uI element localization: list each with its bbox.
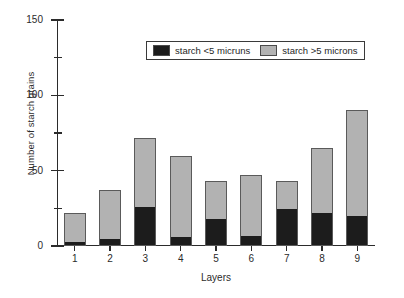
x-tick-label: 5 bbox=[201, 253, 231, 264]
legend-entry-small: starch <5 micruns bbox=[153, 45, 250, 56]
bar-layer-8 bbox=[311, 148, 333, 246]
y-tick-major bbox=[51, 95, 64, 96]
bar-segment-small-grains bbox=[347, 216, 367, 245]
legend-entry-large: starch >5 microns bbox=[260, 45, 357, 56]
y-tick-label: 50 bbox=[9, 166, 43, 176]
y-tick-label: 0 bbox=[9, 241, 43, 251]
x-tick-label: 2 bbox=[95, 253, 125, 264]
bar-layer-9 bbox=[346, 110, 368, 246]
x-tick-label: 9 bbox=[342, 253, 372, 264]
x-tick-label: 6 bbox=[236, 253, 266, 264]
bar-layer-7 bbox=[276, 181, 298, 246]
legend-label-large: starch >5 microns bbox=[282, 45, 357, 56]
bar-layer-6 bbox=[240, 175, 262, 246]
bar-segment-small-grains bbox=[277, 209, 297, 245]
starch-grains-bar-chart: Number of starch grains 050100150 123456… bbox=[0, 0, 404, 298]
y-tick-major bbox=[51, 245, 64, 246]
y-axis-title: Number of starch grains bbox=[25, 34, 36, 214]
bar-layer-1 bbox=[64, 213, 86, 246]
y-tick-major bbox=[51, 170, 64, 171]
y-tick-label: 150 bbox=[9, 15, 43, 25]
x-tick-label: 7 bbox=[272, 253, 302, 264]
chart-legend: starch <5 micruns starch >5 microns bbox=[146, 41, 365, 60]
bar-layer-2 bbox=[99, 190, 121, 246]
bar-segment-small-grains bbox=[171, 237, 191, 245]
bar-segment-small-grains bbox=[312, 213, 332, 245]
dark-swatch-icon bbox=[153, 45, 170, 56]
y-tick-minor bbox=[54, 208, 62, 209]
y-tick-label: 100 bbox=[9, 90, 43, 100]
x-tick-label: 1 bbox=[60, 253, 90, 264]
bar-segment-small-grains bbox=[241, 236, 261, 245]
x-tick-label: 8 bbox=[307, 253, 337, 264]
x-axis-title: Layers bbox=[57, 272, 375, 283]
y-tick-major bbox=[51, 19, 64, 20]
y-tick-minor bbox=[54, 132, 62, 133]
bar-segment-small-grains bbox=[206, 219, 226, 245]
x-tick-label: 3 bbox=[130, 253, 160, 264]
legend-label-small: starch <5 micruns bbox=[175, 45, 250, 56]
light-swatch-icon bbox=[260, 45, 277, 56]
bar-layer-3 bbox=[134, 138, 156, 246]
x-tick-label: 4 bbox=[166, 253, 196, 264]
bar-layer-4 bbox=[170, 156, 192, 246]
bar-layer-5 bbox=[205, 181, 227, 246]
bar-segment-small-grains bbox=[65, 242, 85, 245]
bar-segment-small-grains bbox=[135, 207, 155, 245]
y-tick-minor bbox=[54, 57, 62, 58]
bar-segment-small-grains bbox=[100, 239, 120, 245]
